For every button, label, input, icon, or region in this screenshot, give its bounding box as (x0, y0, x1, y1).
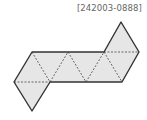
triangle-face (104, 22, 139, 52)
octahedron-net-diagram (0, 0, 147, 120)
net-faces (14, 22, 139, 111)
triangle-face (14, 82, 50, 111)
